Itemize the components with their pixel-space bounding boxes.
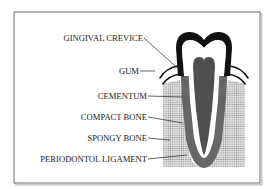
- label-gum: GUM: [119, 66, 139, 76]
- label-cementum: CEMENTUM: [98, 91, 148, 101]
- label-gingival-crevice: GINGIVAL CREVICE: [64, 33, 144, 43]
- label-compact-bone: COMPACT BONE: [81, 112, 147, 122]
- tooth-diagram: GINGIVAL CREVICE GUM CEMENTUM COMPACT BO…: [0, 0, 270, 189]
- label-periodontol-ligament: PERIODONTOL LIGAMENT: [40, 154, 147, 164]
- label-spongy-bone: SPONGY BONE: [87, 133, 147, 143]
